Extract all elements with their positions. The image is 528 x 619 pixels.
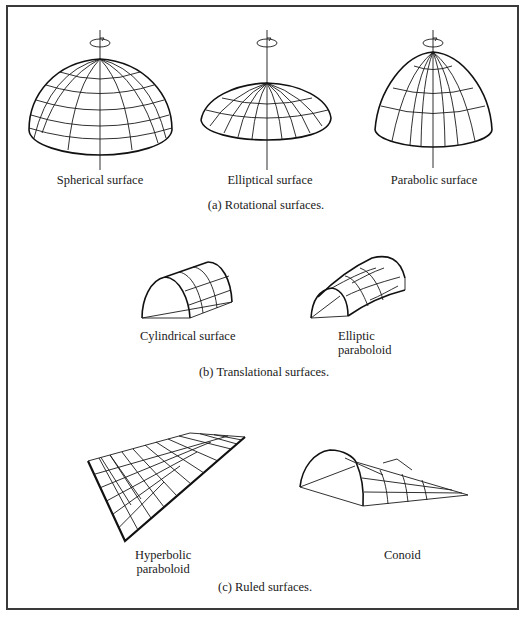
label-elliptic-paraboloid-line2: paraboloid	[338, 343, 391, 357]
label-elliptic-paraboloid: Elliptic paraboloid	[338, 329, 391, 357]
label-spherical-surface: Spherical surface	[55, 173, 145, 187]
parabolic-surface-drawing	[375, 30, 492, 168]
surfaces-diagram	[0, 0, 528, 619]
label-hyperbolic-paraboloid-line2: paraboloid	[135, 562, 191, 576]
hyperbolic-paraboloid-drawing	[88, 433, 245, 541]
label-conoid: Conoid	[384, 548, 421, 562]
spherical-surface-drawing	[29, 30, 172, 170]
cylindrical-surface-drawing	[142, 262, 232, 318]
elliptic-paraboloid-drawing	[311, 257, 405, 318]
caption-translational-surfaces: (b) Translational surfaces.	[199, 365, 329, 380]
caption-ruled-surfaces: (c) Ruled surfaces.	[218, 580, 312, 595]
label-hyperbolic-paraboloid-line1: Hyperbolic	[135, 548, 191, 562]
label-elliptical-surface: Elliptical surface	[220, 173, 320, 187]
label-parabolic-surface: Parabolic surface	[385, 173, 483, 187]
label-cylindrical-surface: Cylindrical surface	[140, 329, 232, 343]
conoid-drawing	[300, 450, 468, 506]
elliptical-surface-drawing	[201, 30, 331, 170]
label-elliptic-paraboloid-line1: Elliptic	[338, 329, 391, 343]
caption-rotational-surfaces: (a) Rotational surfaces.	[208, 198, 324, 213]
label-hyperbolic-paraboloid: Hyperbolic paraboloid	[135, 548, 191, 576]
